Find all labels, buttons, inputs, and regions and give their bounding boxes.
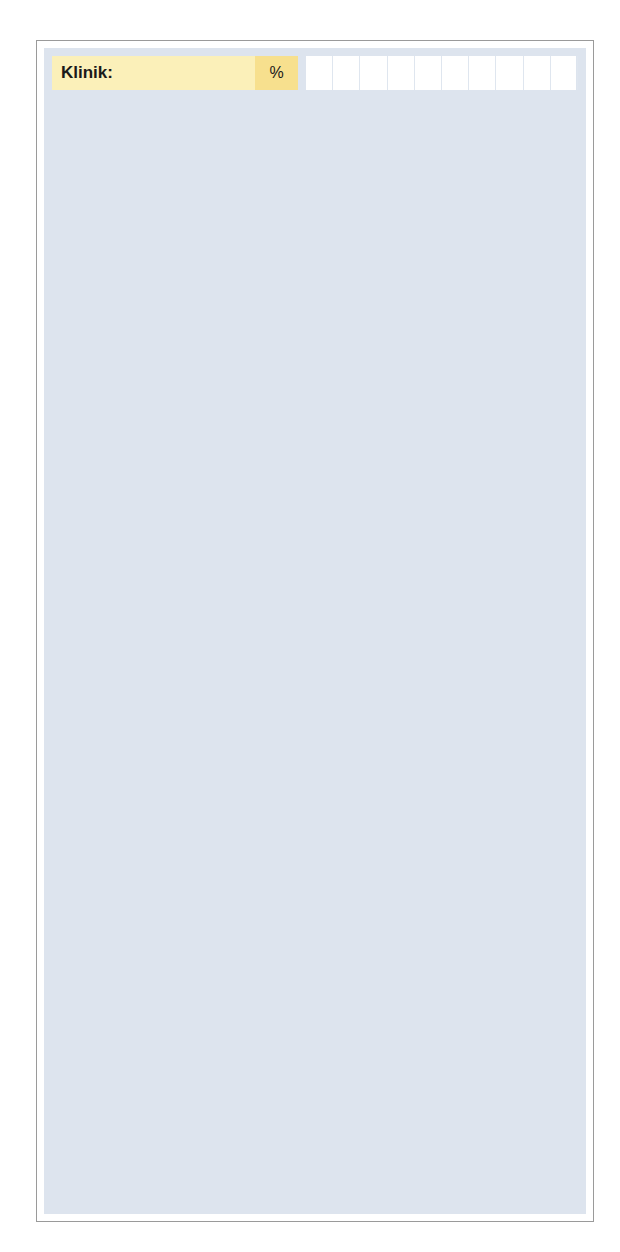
gridline	[332, 56, 333, 90]
gridline	[414, 56, 415, 90]
section-header-klinik: Klinik:%	[44, 56, 586, 90]
gridline	[495, 56, 496, 90]
unit-header: %	[255, 56, 298, 90]
section-header-label: Klinik:	[52, 56, 255, 90]
gridlines	[306, 56, 576, 90]
section-header-plot	[306, 56, 576, 90]
chart-figure: Klinik:%	[36, 40, 594, 1222]
chart-panel: Klinik:%	[44, 48, 586, 1214]
gridline	[577, 56, 578, 90]
gridline	[441, 56, 442, 90]
gridline	[387, 56, 388, 90]
gridline	[523, 56, 524, 90]
gridline	[359, 56, 360, 90]
gridline	[468, 56, 469, 90]
gridline	[550, 56, 551, 90]
